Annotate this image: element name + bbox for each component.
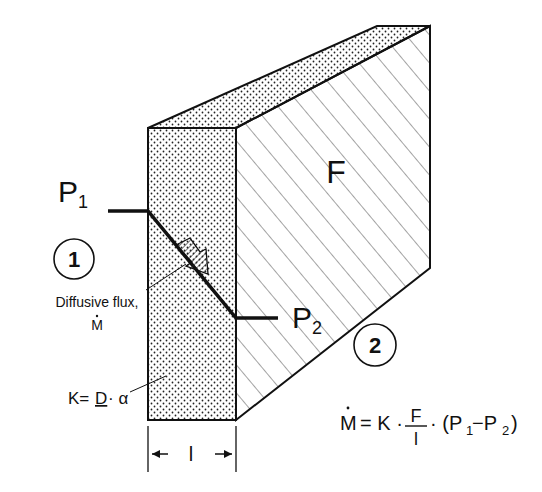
arrowhead-right-icon — [224, 450, 232, 458]
flux-label: Diffusive flux, — [56, 294, 139, 310]
membrane-front-face — [148, 128, 236, 420]
equation-eq: = K · — [360, 412, 403, 434]
k-formula-d: D — [95, 389, 107, 408]
equation-rhs-open: · (P — [430, 412, 462, 434]
equation-rhs-mid: −P — [472, 412, 497, 434]
p1-label: P — [58, 175, 78, 208]
equation-frac-den: l — [414, 429, 418, 449]
k-formula-suffix: · α — [108, 389, 128, 408]
equation-rhs-sub2: 2 — [502, 423, 509, 438]
equation-lhs: M — [340, 412, 357, 434]
flux-dot — [96, 315, 98, 317]
diffusion-diagram: l P 1 P 2 1 2 F Diffusive flux, M K= D ·… — [0, 0, 542, 492]
p2-subscript: 2 — [312, 318, 322, 338]
thickness-label: l — [189, 443, 193, 465]
equation-rhs-close: ) — [511, 412, 518, 434]
region-1-label: 1 — [68, 247, 80, 272]
flux-symbol: M — [91, 317, 103, 333]
region-2-label: 2 — [369, 333, 381, 358]
p1-subscript: 1 — [78, 192, 88, 212]
equation-dot — [347, 407, 350, 410]
equation-frac-num: F — [411, 406, 422, 426]
flux-equation: M = K · F l · (P 1 −P 2 ) — [340, 406, 518, 449]
p2-label: P — [292, 301, 312, 334]
arrowhead-left-icon — [152, 450, 160, 458]
k-formula-prefix: K= — [68, 389, 89, 408]
area-label: F — [326, 154, 346, 190]
